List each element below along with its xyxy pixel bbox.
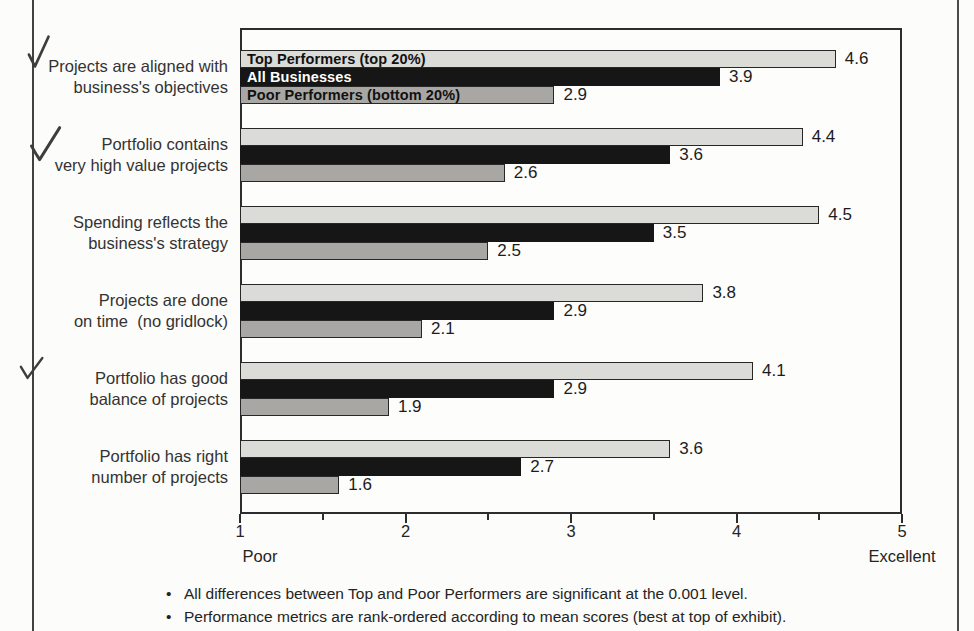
bar-poor-performers-bottom-20-cat3 xyxy=(240,242,488,260)
x-axis-caption-poor: Poor xyxy=(220,547,300,566)
bullet-icon: • xyxy=(166,583,184,606)
value-label: 4.6 xyxy=(845,50,869,68)
value-label: 1.6 xyxy=(348,476,372,494)
x-axis-minor-tick xyxy=(653,514,655,520)
footnote-text: Performance metrics are rank-ordered acc… xyxy=(184,606,786,629)
x-axis-tick-label: 1 xyxy=(220,522,260,541)
value-label: 4.4 xyxy=(812,128,836,146)
bar-all-businesses-cat2 xyxy=(240,146,670,164)
footnote-text: All differences between Top and Poor Per… xyxy=(184,583,748,606)
bar-top-performers-top-20-cat3 xyxy=(240,206,819,224)
value-label: 1.9 xyxy=(398,398,422,416)
bullet-icon: • xyxy=(166,606,184,629)
footnote-item: •Performance metrics are rank-ordered ac… xyxy=(166,606,906,629)
bar-poor-performers-bottom-20-cat4 xyxy=(240,320,422,338)
legend-label: Top Performers (top 20%) xyxy=(240,50,426,68)
checkmark-icon xyxy=(23,30,57,74)
category-label-2: Portfolio containsvery high value projec… xyxy=(40,132,228,178)
page-border-right xyxy=(957,0,959,631)
bar-top-performers-top-20-cat6 xyxy=(240,440,670,458)
value-label: 3.8 xyxy=(712,284,736,302)
value-label: 2.7 xyxy=(530,458,554,476)
x-axis-minor-tick xyxy=(322,514,324,520)
bar-poor-performers-bottom-20-cat5 xyxy=(240,398,389,416)
legend-label: All Businesses xyxy=(240,68,352,86)
value-label: 2.5 xyxy=(497,242,521,260)
category-label-6: Portfolio has rightnumber of projects xyxy=(40,444,228,490)
category-label-4: Projects are doneon time (no gridlock) xyxy=(40,288,228,334)
legend-label: Poor Performers (bottom 20%) xyxy=(240,86,460,104)
footnotes: •All differences between Top and Poor Pe… xyxy=(166,583,906,628)
bar-poor-performers-bottom-20-cat6 xyxy=(240,476,339,494)
page-border-left xyxy=(32,0,34,631)
x-axis-tick-label: 3 xyxy=(551,522,591,541)
x-axis-tick-label: 4 xyxy=(717,522,757,541)
category-label-3: Spending reflects thebusiness's strategy xyxy=(40,210,228,256)
value-label: 3.6 xyxy=(679,440,703,458)
value-label: 2.6 xyxy=(514,164,538,182)
value-label: 3.5 xyxy=(663,224,687,242)
bar-all-businesses-cat3 xyxy=(240,224,654,242)
bar-top-performers-top-20-cat2 xyxy=(240,128,803,146)
checkmark-icon xyxy=(27,124,65,166)
bar-poor-performers-bottom-20-cat2 xyxy=(240,164,505,182)
value-label: 4.5 xyxy=(828,206,852,224)
bar-all-businesses-cat5 xyxy=(240,380,554,398)
bar-all-businesses-cat4 xyxy=(240,302,554,320)
bar-chart-plot-area: 4.6Top Performers (top 20%)4.44.53.84.13… xyxy=(240,28,902,514)
footnote-item: •All differences between Top and Poor Pe… xyxy=(166,583,906,606)
x-axis-minor-tick xyxy=(818,514,820,520)
x-axis-tick-label: 5 xyxy=(882,522,922,541)
x-axis-minor-tick xyxy=(487,514,489,520)
value-label: 3.6 xyxy=(679,146,703,164)
x-axis-caption-excellent: Excellent xyxy=(852,547,952,566)
checkmark-icon xyxy=(14,355,50,389)
category-label-5: Portfolio has goodbalance of projects xyxy=(40,366,228,412)
value-label: 2.9 xyxy=(563,86,587,104)
value-label: 3.9 xyxy=(729,68,753,86)
bar-top-performers-top-20-cat5 xyxy=(240,362,753,380)
bar-top-performers-top-20-cat4 xyxy=(240,284,703,302)
value-label: 2.9 xyxy=(563,380,587,398)
scanned-figure-page: Projects are aligned withbusiness's obje… xyxy=(0,0,974,631)
value-label: 4.1 xyxy=(762,362,786,380)
x-axis-tick-label: 2 xyxy=(386,522,426,541)
value-label: 2.1 xyxy=(431,320,455,338)
category-label-1: Projects are aligned withbusiness's obje… xyxy=(40,54,228,100)
value-label: 2.9 xyxy=(563,302,587,320)
bar-all-businesses-cat6 xyxy=(240,458,521,476)
